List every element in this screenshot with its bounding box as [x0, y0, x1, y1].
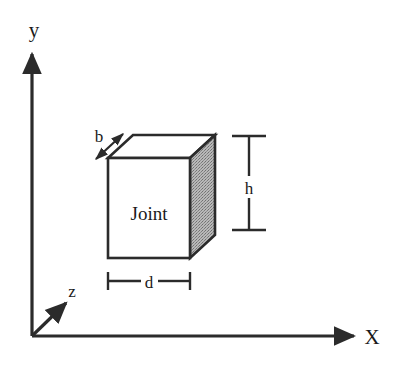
joint-block: Joint — [108, 135, 215, 258]
z-axis-line — [32, 303, 66, 336]
dimension-h-label: h — [245, 179, 254, 198]
x-axis-label: X — [364, 325, 379, 349]
dimension-d: d — [108, 272, 190, 292]
y-axis-label: y — [29, 18, 40, 42]
joint-coordinate-diagram: Joint b h d — [0, 0, 405, 366]
diagram-canvas: Joint b h d — [0, 0, 405, 366]
z-axis-label: z — [68, 282, 76, 301]
block-right-face — [190, 135, 215, 258]
dimension-d-label: d — [145, 273, 154, 292]
dimension-b-label: b — [95, 127, 104, 146]
joint-face-label: Joint — [131, 203, 169, 224]
dimension-h: h — [232, 136, 266, 230]
